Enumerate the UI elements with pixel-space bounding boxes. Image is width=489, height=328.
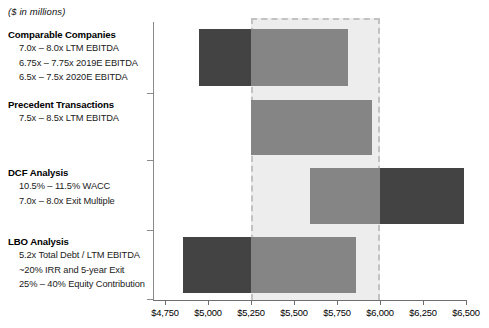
axis-tick [294,300,295,305]
axis-tick [380,300,381,305]
valuation-bar-segment [380,168,464,224]
axis-tick-label: $4,750 [151,307,178,318]
valuation-bar-segment [251,237,356,293]
axis-tick [337,300,338,305]
axis-tick [423,300,424,305]
valuation-bar-segment [251,29,348,86]
plot-area [0,0,489,300]
axis-tick-label: $5,250 [237,307,264,318]
valuation-bar-segment [251,100,372,155]
valuation-bar-segment [199,29,251,86]
axis-tick [251,300,252,305]
axis-tick [208,300,209,305]
axis-tick-label: $5,750 [323,307,350,318]
axis-tick-label: $6,000 [366,307,393,318]
valuation-bar-segment [310,168,380,224]
axis-tick [165,300,166,305]
axis-tick [466,300,467,305]
valuation-bar-segment [183,237,251,293]
axis-tick-label: $5,000 [194,307,221,318]
axis-tick-label: $6,250 [409,307,436,318]
football-field-chart: ($ in millions) Comparable Companies7.0x… [0,0,489,328]
axis-tick-label: $6,500 [452,307,479,318]
value-axis-line [153,300,467,301]
axis-tick-label: $5,500 [280,307,307,318]
